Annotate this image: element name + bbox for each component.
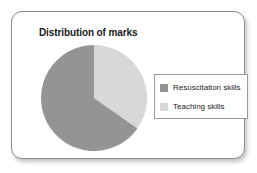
page-title: Distribution of marks [39, 27, 137, 38]
legend-label-teaching-skills: Teaching skills [173, 103, 225, 111]
pie-chart-svg [41, 45, 147, 151]
pie-chart [41, 45, 147, 151]
legend-item-teaching-skills: Teaching skills [160, 99, 243, 115]
chart-figure: Distribution of marks Resuscitation skil… [0, 0, 257, 173]
legend-label-resuscitation-skills: Resuscitation skills [173, 84, 241, 92]
legend-swatch-teaching-skills [160, 103, 168, 111]
legend-item-resuscitation-skills: Resuscitation skills [160, 80, 243, 96]
legend-swatch-resuscitation-skills [160, 84, 168, 92]
chart-legend: Resuscitation skills Teaching skills [154, 74, 248, 119]
chart-card: Distribution of marks Resuscitation skil… [11, 11, 245, 159]
